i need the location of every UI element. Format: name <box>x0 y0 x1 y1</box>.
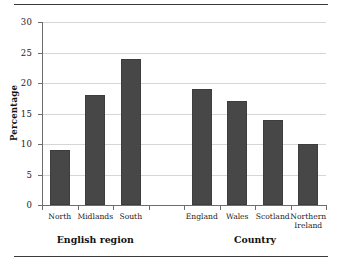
bar-chart-figure: Percentage 051015202530 NorthMidlandsSou… <box>0 0 342 266</box>
x-axis-tick <box>78 205 79 210</box>
plot-area: 051015202530 NorthMidlandsSouthEnglandWa… <box>42 22 326 205</box>
bar <box>298 144 318 205</box>
y-axis-title: Percentage <box>9 85 19 141</box>
x-axis-tick <box>42 205 43 210</box>
x-axis-tick <box>149 205 150 210</box>
y-axis-tick: 15 <box>38 114 43 115</box>
category-label: Northern Ireland <box>284 212 332 231</box>
gridline <box>42 22 326 23</box>
group-label-country: Country <box>234 234 276 245</box>
bar <box>263 120 283 205</box>
x-axis-tick <box>255 205 256 210</box>
x-axis-tick <box>113 205 114 210</box>
y-axis-tick-label: 20 <box>21 78 32 88</box>
y-axis-tick: 30 <box>38 22 43 23</box>
y-axis-tick-label: 25 <box>21 48 32 58</box>
bar <box>50 150 70 205</box>
category-label: South <box>107 212 155 221</box>
y-axis-tick: 20 <box>38 83 43 84</box>
y-axis-tick: 25 <box>38 53 43 54</box>
x-axis-tick <box>326 205 327 210</box>
y-axis-tick: 5 <box>38 175 43 176</box>
group-label-english-region: English region <box>57 234 134 245</box>
x-axis-tick <box>220 205 221 210</box>
top-rule <box>14 4 328 5</box>
gridline <box>42 83 326 84</box>
bar <box>192 89 212 205</box>
bottom-rule <box>14 256 328 257</box>
x-axis-tick <box>291 205 292 210</box>
x-axis-tick <box>184 205 185 210</box>
y-axis-tick-label: 5 <box>26 170 32 180</box>
y-axis-tick: 10 <box>38 144 43 145</box>
y-axis-tick-label: 0 <box>26 200 32 210</box>
y-axis-tick-label: 15 <box>21 109 32 119</box>
gridline <box>42 53 326 54</box>
bar <box>85 95 105 205</box>
bar <box>227 101 247 205</box>
y-axis-tick-label: 10 <box>21 139 32 149</box>
bar <box>121 59 141 205</box>
y-axis-tick-label: 30 <box>21 17 32 27</box>
